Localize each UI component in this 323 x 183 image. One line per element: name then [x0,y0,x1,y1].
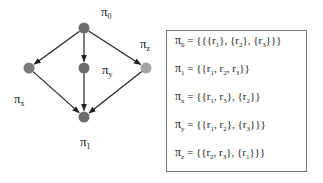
node-piy [79,63,90,74]
node-pi0 [79,23,90,34]
edge-piz-pi1 [89,71,142,113]
node-label-piy: πy [102,62,113,79]
node-label-pi0: π0 [101,4,112,21]
legend-row-y: πy = {{r1, r2}, {r3}}} [175,119,306,147]
lattice-graph: π0πxπyπzπ1 [0,0,165,183]
legend-row-z: πz = {{r2, r3}, {r1}}} [175,147,306,175]
node-label-pi1: π1 [80,134,91,151]
node-pix [24,63,35,74]
edge-pix-pi1 [33,72,79,113]
legend-row-x: πx = {{r1, r3}, {r2}} [175,91,306,119]
legend-row-1: π1 = {{r1, r2, r3}} [175,63,306,91]
node-piz [141,63,152,74]
node-pi1 [79,112,90,123]
edge-pi0-pix [34,31,79,64]
graph-nodes [24,23,152,123]
legend-row-0: π0 = {{{r1}, {r2}, {r3}}} [175,35,306,63]
node-label-pix: πx [14,91,25,108]
edge-pi0-piz [89,31,141,64]
node-label-piz: πz [140,36,151,53]
partition-legend: π0 = {{{r1}, {r2}, {r3}}}π1 = {{r1, r2, … [166,30,307,172]
